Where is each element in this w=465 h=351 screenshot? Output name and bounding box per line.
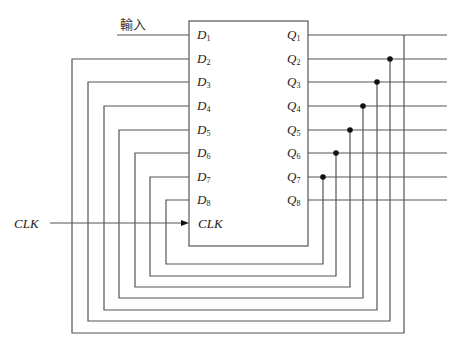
output-pin-q1: Q1 — [287, 28, 300, 43]
output-pin-q2: Q2 — [287, 52, 300, 67]
output-pin-q6: Q6 — [287, 146, 300, 161]
input-pin-d8: D8 — [197, 193, 210, 208]
input-pin-d4: D4 — [197, 99, 210, 114]
input-pin-d1: D1 — [197, 28, 210, 43]
output-pin-q3: Q3 — [287, 75, 300, 90]
input-pin-d6: D6 — [197, 146, 210, 161]
circuit-diagram — [0, 0, 465, 351]
output-pin-q5: Q5 — [287, 123, 300, 138]
input-pin-d7: D7 — [197, 170, 210, 185]
input-pin-d3: D3 — [197, 75, 210, 90]
clock-label: CLK — [14, 217, 39, 230]
input-pin-d5: D5 — [197, 123, 210, 138]
output-pin-q8: Q8 — [287, 193, 300, 208]
output-pin-q7: Q7 — [287, 170, 300, 185]
block-clk-pin: CLK — [198, 217, 223, 230]
input-pin-d2: D2 — [197, 52, 210, 67]
input-label: 輸入 — [120, 14, 146, 33]
output-pin-q4: Q4 — [287, 99, 300, 114]
